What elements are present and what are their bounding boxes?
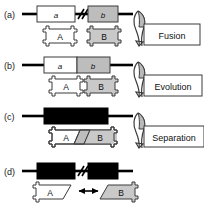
panel-d-protein-b: B: [100, 182, 138, 202]
panel-c-gene-fused: [44, 108, 108, 124]
panel-d-protein-b-label: B: [118, 188, 124, 198]
panel-b-protein-b: B: [84, 76, 118, 96]
panel-b-gene-b-label: b: [91, 62, 96, 71]
fusion-arrow-icon: [134, 11, 145, 46]
panel-c-protein-fused: A B: [49, 127, 117, 147]
panel-c: (c) A B Separation: [4, 108, 204, 148]
panel-b-label: (b): [4, 61, 15, 71]
panel-b-protein-b-label: B: [98, 82, 104, 92]
panel-a-protein-a: A: [43, 26, 77, 46]
panel-b-protein-a: A: [49, 76, 83, 96]
panel-b-gene-b: b: [77, 57, 110, 73]
gene-fusion-diagram: (a) a b A B: [0, 0, 204, 205]
panel-a-gene-a-label: a: [54, 11, 59, 20]
panel-b-gene-a-label: a: [58, 62, 63, 71]
panel-d-gene-b: [88, 163, 118, 179]
panel-d-label: (d): [4, 167, 15, 177]
separation-arrow-icon: [134, 113, 145, 148]
panel-a-protein-b: B: [87, 26, 121, 46]
fusion-label: Fusion: [158, 31, 185, 41]
panel-b-gene-a: a: [44, 57, 77, 73]
panel-a-protein-b-label: B: [101, 32, 107, 42]
panel-d-protein-a: A: [33, 182, 71, 202]
separation-label-box: Separation: [144, 126, 204, 147]
panel-d: (d) A B: [4, 163, 138, 202]
figure-container: (a) a b A B: [0, 0, 204, 205]
evolution-arrow-icon: [134, 62, 145, 97]
separation-label: Separation: [152, 133, 196, 143]
panel-c-protein-a-label: A: [63, 133, 69, 143]
fusion-label-box: Fusion: [144, 24, 200, 45]
panel-b-protein-a-label: A: [63, 82, 69, 92]
panel-a-protein-a-label: A: [57, 32, 63, 42]
panel-a-gene-b: b: [88, 6, 118, 22]
evolution-label-box: Evolution: [144, 75, 202, 96]
panel-c-label: (c): [4, 112, 15, 122]
evolution-label: Evolution: [154, 82, 191, 92]
panel-a: (a) a b A B: [4, 6, 200, 46]
panel-a-gene-b-label: b: [101, 11, 106, 20]
panel-b: (b) a b A B Evolution: [4, 57, 202, 97]
panel-a-gene-a: a: [37, 6, 75, 22]
panel-d-protein-a-label: A: [47, 188, 53, 198]
panel-c-protein-b-label: B: [97, 133, 103, 143]
panel-d-gene-a: [37, 163, 75, 179]
panel-a-label: (a): [4, 10, 15, 20]
